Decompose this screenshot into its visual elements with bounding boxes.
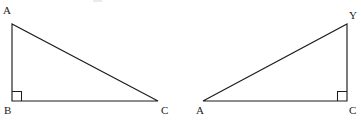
left-triangle [12,24,158,101]
right-triangle [203,24,347,101]
vertex-label-b-left: B [4,105,11,116]
triangles-drawing [0,0,361,120]
vertex-label-c-right: C [349,105,356,116]
top-edge-artifact [93,0,102,2]
vertex-label-c-left: C [161,105,168,116]
right-angle-marker-c [338,92,348,102]
right-angle-marker-b [12,92,22,102]
vertex-label-a-right: A [196,105,204,116]
vertex-label-a-left: A [3,5,11,16]
triangle-ayc-outline [203,24,347,101]
vertex-label-y-right: Y [349,10,357,21]
triangle-abc-outline [12,24,158,101]
geometry-figure: A B C Y A C [0,0,361,120]
